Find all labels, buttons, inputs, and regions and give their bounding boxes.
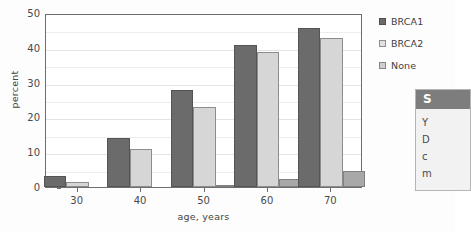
x-tick-label: 60 [247, 195, 287, 206]
legend-swatch-light [379, 40, 386, 47]
bar [257, 52, 280, 187]
x-tick-label: 30 [57, 195, 97, 206]
side-panel-body: YDcm [416, 109, 470, 182]
y-tick-label: 0 [18, 183, 40, 193]
chart-legend: BRCA1BRCA2None [379, 10, 455, 76]
y-axis-ticks: 01020304050 [16, 0, 40, 232]
side-panel-line: D [422, 131, 470, 148]
side-panel-line: Y [422, 114, 470, 131]
x-tick-mark [140, 188, 141, 192]
bar-group [173, 15, 236, 187]
side-panel-header: S [416, 90, 470, 109]
side-panel-line: c [422, 148, 470, 165]
legend-label: BRCA2 [391, 38, 423, 49]
x-tick-mark [204, 188, 205, 192]
x-tick-label: 40 [120, 195, 160, 206]
plot-area [45, 14, 362, 188]
bar [130, 149, 153, 187]
legend-item: None [379, 54, 455, 76]
bar [44, 176, 67, 187]
legend-item: BRCA1 [379, 10, 455, 32]
bar-group [300, 15, 363, 187]
bar [171, 90, 194, 187]
x-axis-title: age, years [45, 211, 362, 222]
legend-label: None [391, 60, 416, 71]
y-tick-label: 20 [18, 113, 40, 123]
y-tick-mark [57, 188, 61, 189]
side-panel-line: m [422, 165, 470, 182]
y-tick-label: 10 [18, 148, 40, 158]
legend-label: BRCA1 [391, 16, 423, 27]
x-tick-mark [330, 188, 331, 192]
y-tick-label: 50 [18, 9, 40, 19]
bar-group [46, 15, 109, 187]
bar-group [109, 15, 172, 187]
bar [107, 138, 130, 187]
y-tick-label: 40 [18, 44, 40, 54]
bar-group [236, 15, 299, 187]
bar [343, 171, 366, 187]
bar [298, 28, 321, 187]
legend-item: BRCA2 [379, 32, 455, 54]
x-tick-label: 70 [310, 195, 350, 206]
y-tick-label: 30 [18, 79, 40, 89]
bar [320, 38, 343, 187]
legend-swatch-medium [379, 62, 386, 69]
bar [234, 45, 257, 187]
side-panel: S YDcm [415, 89, 471, 191]
x-tick-label: 50 [184, 195, 224, 206]
bar [193, 107, 216, 187]
x-tick-mark [77, 188, 78, 192]
legend-swatch-dark [379, 18, 386, 25]
bar [66, 182, 89, 187]
x-tick-mark [267, 188, 268, 192]
